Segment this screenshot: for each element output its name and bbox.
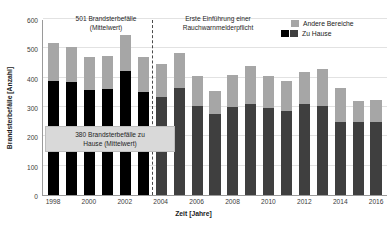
- bar-segment-zu-hause: [281, 111, 292, 195]
- x-tick-label: 2012: [297, 198, 312, 205]
- annotation-mean-home: 380 Brandsterbefälle zu Hause (Mittelwer…: [45, 126, 175, 152]
- bar-segment-andere-bereiche: [263, 76, 274, 108]
- legend-label-zu-hause: Zu Hause: [302, 30, 331, 37]
- legend-swatch-home-pre-law-icon: [281, 30, 289, 37]
- bar-slot: [313, 20, 331, 195]
- bar-segment-zu-hause: [317, 106, 328, 195]
- y-tick-label: 200: [8, 134, 38, 141]
- x-tick-slot: [170, 197, 188, 211]
- bar-segment-andere-bereiche: [370, 100, 381, 122]
- bar-slot: [81, 20, 99, 195]
- stacked-bar[interactable]: [263, 76, 274, 195]
- x-tick-slot: [349, 197, 367, 211]
- x-tick-slot: [134, 197, 152, 211]
- x-axis-tick-labels: 1998200020022004200620082010201220142016: [42, 197, 387, 211]
- stacked-bar[interactable]: [299, 72, 310, 195]
- y-tick-label: 500: [8, 46, 38, 53]
- bar-segment-andere-bereiche: [227, 75, 238, 107]
- stacked-bar[interactable]: [174, 53, 185, 195]
- x-tick-slot: [313, 197, 331, 211]
- x-tick-slot: 2016: [367, 197, 385, 211]
- y-tick-label: 0: [8, 193, 38, 200]
- x-tick-label: 2006: [189, 198, 204, 205]
- stacked-bar[interactable]: [245, 66, 256, 195]
- x-tick-slot: [277, 197, 295, 211]
- bar-slot: [206, 20, 224, 195]
- annotation-mean-total: 501 Brandsterbefälle (Mittelwert): [52, 14, 160, 32]
- bar-slot: [349, 20, 367, 195]
- stacked-bar[interactable]: [66, 47, 77, 195]
- bar-segment-andere-bereiche: [120, 35, 131, 72]
- stacked-bar[interactable]: [281, 81, 292, 195]
- bar-segment-andere-bereiche: [156, 64, 167, 96]
- bar-slot: [331, 20, 349, 195]
- law-introduction-divider-line: [152, 20, 153, 195]
- x-tick-slot: 2014: [331, 197, 349, 211]
- chart-figure: Brandsterbefälle [Anzahl] Zeit [Jahre] 0…: [0, 0, 391, 229]
- x-tick-slot: [241, 197, 259, 211]
- x-tick-label: 2002: [117, 198, 132, 205]
- legend-item-andere-bereiche: Andere Bereiche: [281, 20, 354, 27]
- stacked-bar[interactable]: [48, 43, 59, 195]
- bar-segment-zu-hause: [245, 104, 256, 195]
- bar-segment-zu-hause: [174, 88, 185, 195]
- bar-slot: [170, 20, 188, 195]
- x-tick-slot: [62, 197, 80, 211]
- x-tick-slot: [206, 197, 224, 211]
- bar-slot: [45, 20, 63, 195]
- bar-segment-andere-bereiche: [66, 47, 77, 82]
- bar-segment-andere-bereiche: [335, 88, 346, 122]
- bar-segment-andere-bereiche: [84, 57, 95, 90]
- bar-segment-andere-bereiche: [48, 43, 59, 81]
- x-tick-slot: [98, 197, 116, 211]
- x-tick-label: 1998: [46, 198, 61, 205]
- legend-label-andere-bereiche: Andere Bereiche: [303, 20, 354, 27]
- x-tick-slot: 2002: [116, 197, 134, 211]
- bar-segment-andere-bereiche: [281, 81, 292, 112]
- x-tick-slot: 2012: [295, 197, 313, 211]
- bar-segment-andere-bereiche: [353, 101, 364, 122]
- bar-slot: [260, 20, 278, 195]
- bar-segment-zu-hause: [209, 114, 220, 195]
- bar-segment-andere-bereiche: [138, 57, 149, 93]
- x-tick-slot: 2004: [152, 197, 170, 211]
- x-tick-label: 2000: [82, 198, 97, 205]
- y-tick-label: 600: [8, 17, 38, 24]
- legend-item-zu-hause: Zu Hause: [281, 30, 354, 37]
- bar-slot: [367, 20, 385, 195]
- chart-legend: Andere Bereiche Zu Hause: [281, 20, 354, 40]
- x-tick-slot: 2006: [188, 197, 206, 211]
- stacked-bar[interactable]: [353, 101, 364, 195]
- stacked-bar[interactable]: [192, 76, 203, 195]
- stacked-bar[interactable]: [120, 35, 131, 195]
- bar-segment-zu-hause: [335, 122, 346, 195]
- bar-series-group: [43, 20, 387, 195]
- y-tick-label: 300: [8, 105, 38, 112]
- annotation-law-introduction: Erste Einführung einer Rauchwarnmelderpf…: [168, 14, 268, 32]
- stacked-bar[interactable]: [317, 69, 328, 195]
- bar-slot: [278, 20, 296, 195]
- stacked-bar[interactable]: [227, 75, 238, 195]
- stacked-bar[interactable]: [370, 100, 381, 195]
- stacked-bar[interactable]: [335, 88, 346, 195]
- plot-area: [42, 20, 387, 196]
- bar-segment-andere-bereiche: [317, 69, 328, 106]
- bar-slot: [134, 20, 152, 195]
- bar-segment-zu-hause: [370, 122, 381, 195]
- x-tick-label: 2010: [261, 198, 276, 205]
- bar-segment-zu-hause: [353, 122, 364, 195]
- bar-segment-andere-bereiche: [192, 76, 203, 105]
- bar-segment-andere-bereiche: [174, 53, 185, 88]
- bar-slot: [152, 20, 170, 195]
- bar-segment-andere-bereiche: [245, 66, 256, 104]
- bar-segment-zu-hause: [227, 107, 238, 195]
- bar-segment-andere-bereiche: [299, 72, 310, 104]
- bar-slot: [117, 20, 135, 195]
- x-tick-slot: 2008: [224, 197, 242, 211]
- legend-swatch-other-areas-icon: [291, 20, 299, 27]
- x-tick-slot: 1998: [44, 197, 62, 211]
- x-axis-title: Zeit [Jahre]: [0, 210, 391, 217]
- stacked-bar[interactable]: [209, 91, 220, 195]
- bar-segment-andere-bereiche: [209, 91, 220, 114]
- y-tick-label: 400: [8, 75, 38, 82]
